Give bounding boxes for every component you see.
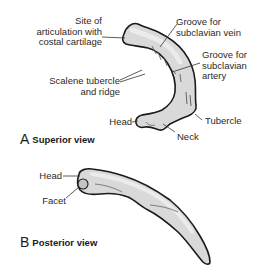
- label-scalene-tubercle: Scalene tubercle and ridge: [32, 76, 120, 97]
- label-neck: Neck: [177, 132, 199, 143]
- label-groove-subclavian-artery: Groove for subclavian artery: [202, 50, 247, 82]
- panel-a-letter: A: [20, 131, 29, 147]
- label-facet: Facet: [28, 196, 66, 207]
- label-articulation-site: Site of articulation with costal cartila…: [22, 16, 102, 48]
- panel-b-title: BPosterior view: [20, 234, 97, 250]
- label-head-posterior: Head: [28, 171, 62, 182]
- rib-posterior-view-shape: [78, 169, 210, 265]
- label-head-superior: Head: [100, 117, 132, 128]
- panel-b-letter: B: [20, 234, 29, 250]
- first-rib-figure: Site of articulation with costal cartila…: [0, 0, 268, 272]
- panel-a-title: ASuperior view: [20, 131, 95, 147]
- label-tubercle: Tubercle: [205, 116, 242, 127]
- panel-a-title-text: Superior view: [32, 134, 94, 145]
- label-groove-subclavian-vein: Groove for subclavian vein: [176, 17, 241, 38]
- rib-superior-view-shape: [123, 24, 196, 131]
- panel-b-title-text: Posterior view: [32, 237, 97, 248]
